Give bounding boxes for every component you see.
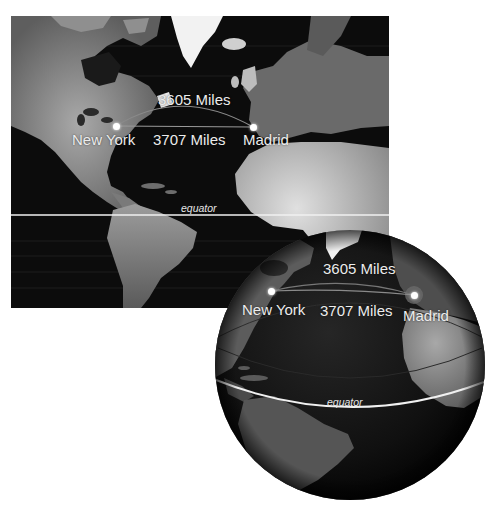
new-york-label: New York xyxy=(72,132,135,147)
globe-great-circle-distance-label: 3605 Miles xyxy=(323,261,396,276)
new-york-marker xyxy=(113,123,120,130)
madrid-label: Madrid xyxy=(243,132,289,147)
globe-new-york-label: New York xyxy=(242,302,305,317)
straight-distance-label: 3707 Miles xyxy=(153,132,226,147)
globe-madrid-label: Madrid xyxy=(403,308,449,323)
globe-new-york-marker xyxy=(268,288,275,295)
globe-straight-distance-label: 3707 Miles xyxy=(320,303,393,318)
iceland xyxy=(222,38,246,50)
globe-madrid-marker xyxy=(411,292,418,299)
great-circle-distance-label: 3605 Miles xyxy=(158,92,231,107)
globe-equator-label: equator xyxy=(327,397,363,408)
equator-label: equator xyxy=(181,203,217,214)
globe: 3605 Miles New York 3707 Miles Madrid eq… xyxy=(214,228,486,502)
madrid-marker xyxy=(250,124,257,131)
